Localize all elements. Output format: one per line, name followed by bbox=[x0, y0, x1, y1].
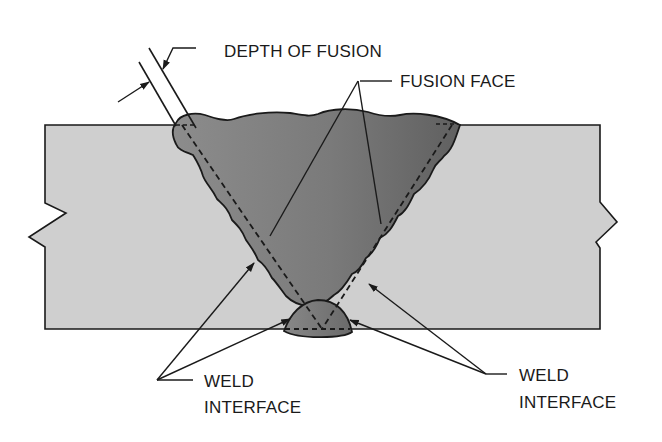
fusion-face-label: FUSION FACE bbox=[400, 72, 516, 91]
depth-arrow-right bbox=[163, 48, 196, 69]
depth-extension-line-2 bbox=[149, 48, 196, 128]
weld-interface-right-label-line2: INTERFACE bbox=[519, 393, 616, 412]
weld-diagram: DEPTH OF FUSION FUSION FACE WELD INTERFA… bbox=[0, 0, 662, 442]
weld-interface-left-label-line2: INTERFACE bbox=[204, 398, 301, 417]
depth-arrow-left bbox=[118, 82, 149, 102]
weld-interface-right-label-line1: WELD bbox=[519, 366, 569, 385]
weld-interface-left-label-line1: WELD bbox=[204, 372, 254, 391]
depth-of-fusion-label: DEPTH OF FUSION bbox=[224, 42, 382, 61]
depth-extension-line-1 bbox=[139, 62, 176, 126]
